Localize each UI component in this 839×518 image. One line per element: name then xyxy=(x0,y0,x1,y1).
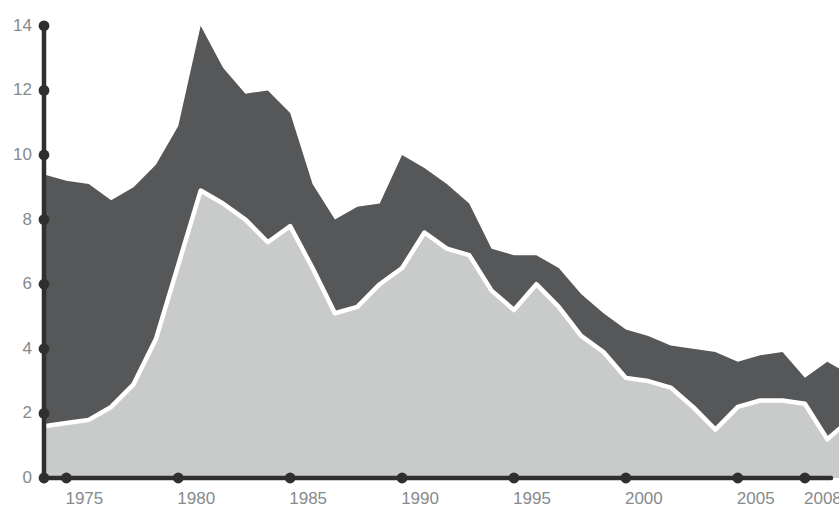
x-tick-dot xyxy=(61,473,72,484)
y-tick-dot xyxy=(39,214,50,225)
y-tick-label: 14 xyxy=(2,17,32,34)
y-tick-label: 0 xyxy=(2,469,32,486)
y-tick-dot xyxy=(39,150,50,161)
x-tick-label: 2005 xyxy=(726,490,786,507)
y-tick-label: 6 xyxy=(2,275,32,292)
y-tick-label: 10 xyxy=(2,146,32,163)
x-tick-label: 1980 xyxy=(166,490,226,507)
x-tick-label: 1990 xyxy=(390,490,450,507)
y-tick-dot xyxy=(39,20,50,31)
x-tick-dot xyxy=(800,473,811,484)
y-tick-dot xyxy=(39,408,50,419)
area-chart: ........................... 02468101214 … xyxy=(0,0,839,518)
y-tick-label: 2 xyxy=(2,404,32,421)
x-tick-label: 1995 xyxy=(502,490,562,507)
x-tick-dot xyxy=(285,473,296,484)
x-tick-label: 1985 xyxy=(278,490,338,507)
x-tick-label: 1975 xyxy=(54,490,114,507)
x-tick-dot xyxy=(509,473,520,484)
x-tick-dot xyxy=(732,473,743,484)
y-tick-label: 12 xyxy=(2,81,32,98)
plot-area xyxy=(0,0,839,518)
y-tick-dot xyxy=(39,85,50,96)
x-tick-dot xyxy=(173,473,184,484)
x-tick-label: 2000 xyxy=(614,490,674,507)
x-tick-dot xyxy=(620,473,631,484)
y-tick-dot xyxy=(39,473,50,484)
x-tick-dot xyxy=(397,473,408,484)
y-tick-label: 4 xyxy=(2,340,32,357)
y-tick-dot xyxy=(39,343,50,354)
x-tick-label: 2008 xyxy=(793,490,839,507)
chart-svg xyxy=(0,0,839,518)
y-tick-label: 8 xyxy=(2,211,32,228)
y-tick-dot xyxy=(39,279,50,290)
